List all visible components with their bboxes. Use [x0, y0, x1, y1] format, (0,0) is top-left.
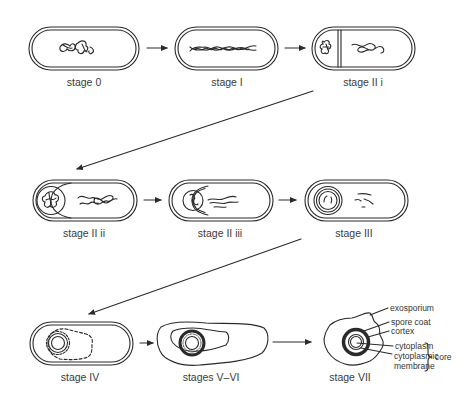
stage-2i-label: stage II i [343, 76, 383, 88]
stage-5-6-cell [157, 322, 268, 365]
cytoplasmic-membrane-label-1: cytoplasmic [394, 351, 438, 361]
stage-0-cell [29, 27, 139, 70]
sporulation-diagram [0, 0, 475, 399]
stage-1-label: stage I [211, 76, 243, 88]
stage-2iii-cell [169, 180, 273, 221]
stage-0-label: stage 0 [67, 76, 101, 88]
cytoplasm-label: cytoplasm [395, 341, 433, 351]
stage-7-label: stage VII [329, 371, 370, 383]
stage-4-label: stage IV [61, 371, 100, 383]
stage-2ii-cell [33, 180, 137, 221]
stage-4-cell [30, 322, 133, 365]
stage-2i-cell [312, 27, 415, 70]
stage-5-6-label: stages V–VI [183, 371, 240, 383]
stage-2iii-label: stage II iii [198, 227, 242, 239]
cytoplasmic-membrane-label-2: membrane [394, 361, 435, 371]
exosporium-label: exosporium [390, 303, 434, 313]
core-label: core [435, 352, 452, 362]
stage-3-cell [305, 180, 408, 221]
stage-3-label: stage III [335, 227, 372, 239]
stage-2ii-label: stage II ii [63, 227, 105, 239]
stage-1-cell [175, 27, 278, 70]
cortex-label: cortex [391, 326, 414, 336]
